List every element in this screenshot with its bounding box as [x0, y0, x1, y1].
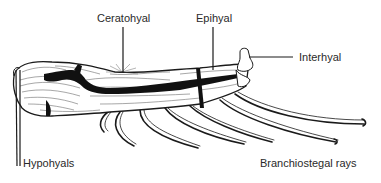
- hyoid-arch-drawing: [0, 0, 381, 183]
- interhyal-bone: [236, 48, 253, 86]
- hyoid-arch-figure: Ceratohyal Epihyal Interhyal Hypohyals B…: [0, 0, 381, 183]
- interhyal-label: Interhyal: [299, 51, 341, 63]
- epihyal-label: Epihyal: [196, 12, 232, 24]
- branchiostegal-rays-label: Branchiostegal rays: [260, 157, 357, 169]
- hypohyals-label: Hypohyals: [23, 157, 74, 169]
- ceratohyal-label: Ceratohyal: [97, 12, 150, 24]
